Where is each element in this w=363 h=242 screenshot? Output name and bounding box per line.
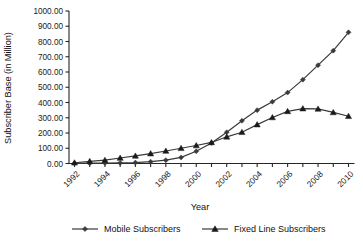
y-axis-tick-label: 800.00 — [38, 38, 63, 47]
data-point-marker — [254, 122, 260, 127]
legend-item-1[interactable]: Mobile Subscribers — [72, 224, 181, 234]
data-series-group — [71, 30, 351, 166]
legend-item-2[interactable]: Fixed Line Subscribers — [202, 224, 326, 234]
x-axis-tick-label: 2010 — [335, 169, 355, 189]
x-axis-title-text: Year — [191, 202, 210, 212]
data-point-marker — [163, 158, 168, 163]
x-axis-tick-label: 1996 — [122, 169, 142, 189]
y-axis-tick-label: 200.00 — [38, 129, 63, 138]
x-axis-tick-label: 2006 — [274, 169, 294, 189]
y-axis-tick-label: 100.00 — [38, 144, 63, 153]
x-axis-tick-label: 2002 — [213, 169, 233, 189]
line-chart: Subscriber Base (in Million) 0.00100.002… — [0, 0, 363, 242]
data-point-marker — [133, 160, 138, 165]
x-axis-tick-label: 2004 — [244, 169, 264, 189]
data-point-marker — [82, 226, 87, 231]
y-axis-tick-label: 0.00 — [47, 160, 63, 169]
x-axis-tick-label: 1994 — [92, 169, 112, 189]
series-2 — [71, 106, 351, 165]
y-axis-tick-label: 700.00 — [38, 53, 63, 62]
x-axis-tick-labels: 1992199419961998200020022004200620082010 — [61, 169, 355, 189]
x-axis-tick-label: 1998 — [152, 169, 172, 189]
data-point-marker — [194, 149, 199, 154]
y-axis-tick-label: 600.00 — [38, 68, 63, 77]
data-point-marker — [118, 160, 123, 165]
y-axis-title: Subscriber Base (in Million) — [3, 32, 13, 144]
data-point-marker — [179, 155, 184, 160]
x-axis-tick-label: 1992 — [61, 169, 81, 189]
y-axis-tick-label: 400.00 — [38, 99, 63, 108]
y-axis-title-text: Subscriber Base (in Million) — [3, 32, 13, 144]
y-axis-tick-labels: 0.00100.00200.00300.00400.00500.00600.00… — [33, 7, 63, 169]
y-axis-tick-label: 500.00 — [38, 83, 63, 92]
y-axis-tick-label: 1000.00 — [33, 7, 63, 16]
chart-legend: Mobile SubscribersFixed Line Subscribers — [72, 224, 326, 234]
data-point-marker — [239, 129, 245, 134]
y-axis-tick-label: 300.00 — [38, 114, 63, 123]
x-axis-tick-label: 2000 — [183, 169, 203, 189]
legend-label: Mobile Subscribers — [104, 224, 181, 234]
legend-label: Fixed Line Subscribers — [234, 224, 326, 234]
series-1 — [72, 30, 351, 166]
data-point-marker — [270, 99, 275, 104]
series-line — [75, 109, 349, 163]
y-axis-tick-label: 900.00 — [38, 22, 63, 31]
x-axis-tick-label: 2008 — [305, 169, 325, 189]
chart-container: Subscriber Base (in Million) 0.00100.002… — [0, 0, 363, 242]
